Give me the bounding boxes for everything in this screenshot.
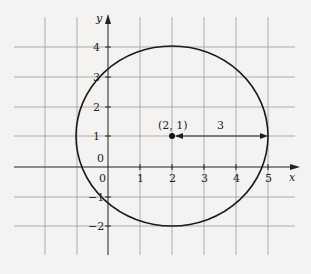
axes bbox=[14, 20, 295, 255]
radius-label: 3 bbox=[217, 119, 224, 132]
y-tick-1: 1 bbox=[93, 130, 100, 143]
coordinate-plane: y x 0 1 2 3 4 5 4 3 2 1 0 −1 −2 (2, 1) 3 bbox=[0, 0, 311, 274]
y-tick-neg1: −1 bbox=[88, 191, 104, 204]
x-tick-1: 1 bbox=[137, 172, 144, 185]
center-point bbox=[169, 133, 175, 139]
center-label: (2, 1) bbox=[158, 119, 188, 132]
y-axis-label: y bbox=[95, 12, 103, 25]
radius-arrow-left-icon bbox=[175, 133, 183, 139]
x-tick-5: 5 bbox=[265, 172, 272, 185]
y-tick-0: 0 bbox=[97, 152, 104, 165]
x-tick-2: 2 bbox=[169, 172, 176, 185]
y-tick-3: 3 bbox=[93, 71, 100, 84]
radius-arrow-right-icon bbox=[260, 133, 268, 139]
x-tick-4: 4 bbox=[233, 172, 240, 185]
x-axis-label: x bbox=[289, 171, 296, 184]
y-tick-2: 2 bbox=[93, 101, 100, 114]
y-tick-neg2: −2 bbox=[88, 220, 104, 233]
y-axis-arrow-icon bbox=[105, 14, 111, 24]
x-tick-3: 3 bbox=[201, 172, 208, 185]
y-tick-4: 4 bbox=[93, 41, 100, 54]
x-axis-arrow-icon bbox=[290, 164, 300, 170]
x-tick-0: 0 bbox=[99, 172, 106, 185]
